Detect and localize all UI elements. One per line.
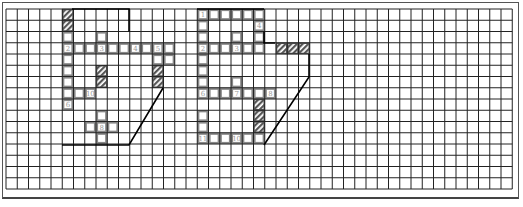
cell-label: 11 [198, 135, 207, 143]
cell-label: 2 [66, 45, 70, 53]
highlighted-cell [198, 66, 207, 75]
hatched-cell [153, 66, 163, 76]
highlighted-cell [63, 78, 72, 87]
highlighted-cell [232, 33, 241, 42]
highlighted-cell [210, 89, 219, 98]
highlighted-cell [97, 33, 106, 42]
hatched-cell [254, 111, 264, 121]
grid-lines [6, 9, 512, 189]
cell-label: 6 [66, 101, 71, 109]
highlighted-cell [63, 55, 72, 64]
cell-label: 5 [156, 45, 160, 53]
highlighted-cell [255, 89, 264, 98]
highlighted-cell [86, 123, 95, 132]
highlighted-cell [221, 89, 230, 98]
hatched-cell [97, 66, 107, 76]
highlighted-cell [210, 10, 219, 19]
cell-label: 3 [234, 45, 238, 53]
hatched-cell [288, 43, 298, 53]
highlighted-cell [243, 134, 252, 143]
highlighted-cell [210, 44, 219, 53]
highlighted-cell [232, 78, 241, 87]
highlighted-cell [221, 134, 230, 143]
highlighted-cell [97, 134, 106, 143]
highlighted-cell [75, 44, 84, 53]
highlighted-cell [63, 89, 72, 98]
cell-label: 6 [201, 90, 206, 98]
highlighted-cell [75, 89, 84, 98]
grid-board: 2345106814236781110 [0, 0, 523, 207]
highlighted-cell [255, 44, 264, 53]
highlighted-cell [165, 44, 174, 53]
highlighted-cell [221, 10, 230, 19]
hatched-cell [254, 122, 264, 132]
highlighted-cell [165, 55, 174, 64]
cell-label: 7 [234, 90, 238, 98]
highlighted-cell [198, 111, 207, 120]
left-figure-bottom [62, 88, 163, 145]
cell-label: 2 [201, 45, 205, 53]
right-figure-edge [264, 32, 275, 44]
highlighted-cell [97, 111, 106, 120]
highlighted-cell [86, 44, 95, 53]
highlighted-cell [108, 44, 117, 53]
highlighted-cell [243, 10, 252, 19]
highlighted-cell [120, 44, 129, 53]
hatched-cell [153, 77, 163, 87]
hatched-cell [277, 43, 287, 53]
highlighted-cell [198, 123, 207, 132]
cell-label: 4 [133, 45, 138, 53]
cell-label: 1 [201, 11, 205, 19]
highlighted-cell [198, 21, 207, 30]
cell-label: 10 [86, 90, 95, 98]
highlighted-cell [198, 55, 207, 64]
highlighted-cell [232, 10, 241, 19]
hatched-cell [63, 21, 73, 31]
cell-label: 8 [268, 90, 272, 98]
highlighted-cell [243, 44, 252, 53]
highlighted-cell [142, 44, 151, 53]
hatched-cell [254, 100, 264, 110]
cell-label: 4 [257, 22, 262, 30]
cell-label: 8 [99, 124, 103, 132]
highlighted-cell [221, 44, 230, 53]
cell-label: 10 [232, 135, 241, 143]
highlighted-cell [63, 66, 72, 75]
highlighted-cell [108, 123, 117, 132]
highlighted-cell [210, 134, 219, 143]
hatched-cell [63, 10, 73, 20]
highlighted-cell [255, 134, 264, 143]
highlighted-cell [255, 10, 264, 19]
highlighted-cell [243, 89, 252, 98]
highlighted-cell [255, 33, 264, 42]
hatched-cell [97, 77, 107, 87]
highlighted-cell [198, 78, 207, 87]
cell-label: 3 [99, 45, 103, 53]
hatched-cell [299, 43, 309, 53]
highlighted-cell [63, 33, 72, 42]
highlighted-cell [198, 33, 207, 42]
highlighted-cell [153, 55, 162, 64]
